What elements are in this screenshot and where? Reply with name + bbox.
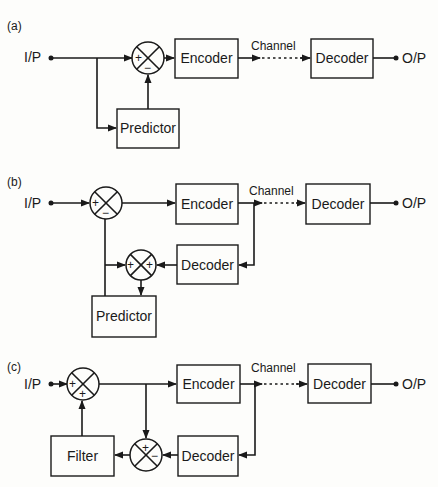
label-a: (a) — [7, 19, 22, 33]
channel-label-a: Channel — [251, 39, 296, 53]
subtractor-a: + − — [132, 42, 164, 75]
plus-sign: + — [69, 377, 76, 391]
subtractor-c: + − — [130, 439, 162, 471]
diagram-a: (a) I/P + − Encoder Channel Decoder O/P … — [7, 19, 426, 148]
filter-label-c: Filter — [67, 448, 98, 464]
diagram-c: (c) I/P + + Encoder Channel Decoder O/P … — [7, 360, 426, 476]
decoder-label-c: Decoder — [313, 376, 366, 392]
dpcm-block-diagrams: (a) I/P + − Encoder Channel Decoder O/P … — [0, 0, 438, 487]
minus-sign: − — [144, 61, 151, 75]
plus-sign: + — [127, 258, 134, 272]
label-c: (c) — [7, 360, 21, 374]
plus-sign: + — [135, 51, 142, 65]
plus-sign: + — [79, 387, 86, 401]
local-decoder-label-b: Decoder — [181, 257, 234, 273]
adder-b: + + — [126, 250, 156, 280]
plus-sign: + — [142, 441, 149, 455]
diagram-b: (b) I/P + − Encoder Channel Decoder O/P … — [7, 175, 426, 337]
plus-sign: + — [146, 258, 153, 272]
subtractor-b: + − — [90, 187, 122, 220]
local-decoder-label-c: Decoder — [182, 448, 235, 464]
adder-c: + + — [67, 368, 99, 401]
decoder-label-a: Decoder — [316, 50, 369, 66]
output-label-c: O/P — [402, 376, 426, 392]
channel-label-c: Channel — [251, 361, 296, 375]
input-label-b: I/P — [24, 195, 41, 211]
input-label-a: I/P — [24, 49, 41, 65]
label-b: (b) — [7, 175, 22, 189]
output-terminal-c — [394, 382, 399, 387]
plus-sign: + — [92, 196, 99, 210]
encoder-label-c: Encoder — [182, 376, 234, 392]
channel-label-b: Channel — [249, 184, 294, 198]
wire-channel-to-local-decoder-c — [239, 384, 255, 455]
predictor-label-a: Predictor — [120, 120, 176, 136]
output-label-a: O/P — [402, 50, 426, 66]
decoder-label-b: Decoder — [312, 196, 365, 212]
wire-channel-to-local-decoder-b — [239, 203, 254, 265]
output-terminal-b — [394, 201, 399, 206]
output-terminal-a — [394, 56, 399, 61]
minus-sign: − — [102, 206, 109, 220]
output-label-b: O/P — [402, 195, 426, 211]
input-label-c: I/P — [24, 376, 41, 392]
encoder-label-b: Encoder — [181, 196, 233, 212]
wire-branch-predictor-a — [97, 58, 116, 128]
minus-sign: − — [151, 449, 158, 463]
predictor-label-b: Predictor — [96, 308, 152, 324]
encoder-label-a: Encoder — [180, 50, 232, 66]
